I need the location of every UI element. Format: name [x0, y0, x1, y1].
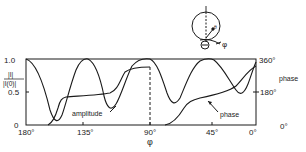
- y-right-tick-180: 180°: [260, 88, 277, 97]
- y-right-label: phase: [279, 75, 298, 83]
- phase-curve-2: [165, 66, 256, 125]
- x-axis-label-phi: φ: [147, 137, 153, 147]
- inset-theta-label: θ: [214, 24, 217, 30]
- inset-phi-label: φ: [222, 40, 227, 49]
- x-tick-label-135: 135°: [77, 128, 94, 137]
- chart-figure: φ θ amplitude phase 1.0 |I| |I(0)| 0.5 0…: [0, 0, 306, 152]
- y-left-tick-05: 0.5: [8, 88, 20, 97]
- annotation-phase: phase: [220, 111, 239, 119]
- y-left-label-bottom: |I(0)|: [3, 80, 16, 88]
- y-right-tick-0: 0°: [280, 122, 288, 131]
- y-left-tick-1: 1.0: [4, 56, 16, 65]
- x-tick-label-0: 0°: [249, 128, 257, 137]
- x-tick-label-180: 180°: [18, 128, 35, 137]
- y-right-tick-360: 360°: [259, 56, 276, 65]
- annotation-amplitude: amplitude: [72, 110, 102, 118]
- x-tick-label-45: 45°: [206, 128, 218, 137]
- x-tick-label-90: 90°: [144, 128, 156, 137]
- y-left-label-top: |I|: [8, 71, 13, 79]
